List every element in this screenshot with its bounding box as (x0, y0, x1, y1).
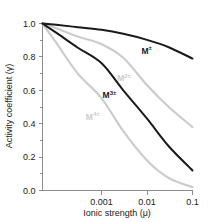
y-axis-tick-labels: 0.00.20.40.60.81.0 (23, 19, 36, 196)
data-curves (43, 24, 193, 188)
x-axis-tick-labels: 0.0010.010.1 (90, 197, 198, 207)
y-tick-label: 0.4 (23, 119, 36, 129)
y-tick-label: 0.6 (23, 86, 36, 96)
curve-m3 (43, 24, 193, 171)
series-label-m: M± (141, 45, 152, 55)
y-axis-title: Activity coefficient (γ) (4, 64, 14, 148)
chart-canvas: 0.00.20.40.60.81.0 0.0010.010.1 M±M2±M3±… (0, 0, 208, 222)
activity-coefficient-chart: 0.00.20.40.60.81.0 0.0010.010.1 M±M2±M3±… (0, 0, 208, 222)
x-tick-label: 0.001 (90, 197, 113, 207)
series-label-m3: M3± (103, 90, 117, 100)
series-label-m4: M4± (86, 111, 100, 121)
x-tick-label: 0.01 (138, 197, 156, 207)
x-tick-label: 0.1 (186, 197, 199, 207)
y-tick-label: 0.2 (23, 152, 36, 162)
series-label-m2: M2± (117, 73, 131, 83)
y-tick-label: 1.0 (23, 19, 36, 29)
y-tick-label: 0.0 (23, 186, 36, 196)
x-axis-ticks (102, 191, 193, 195)
y-axis-ticks (39, 24, 43, 191)
y-tick-label: 0.8 (23, 52, 36, 62)
x-axis-title: Ionic strength (μ) (83, 208, 151, 218)
